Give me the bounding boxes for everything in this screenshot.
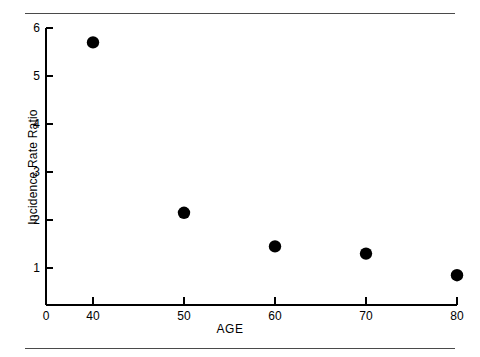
y-tick-label-1: 1 — [18, 262, 40, 274]
data-point — [178, 207, 190, 219]
plot-area: 6 5 4 3 2 1 0 40 50 60 70 80 AGE Inciden… — [0, 0, 480, 357]
data-point — [451, 269, 463, 281]
x-tick-label-80: 80 — [442, 310, 472, 322]
data-point — [87, 36, 99, 48]
x-tick-label-60: 60 — [260, 310, 290, 322]
y-tick-label-6: 6 — [18, 22, 40, 34]
bottom-horizontal-rule — [25, 348, 455, 349]
y-axis-title: Incidence Rate Ratio — [26, 87, 40, 247]
data-point — [269, 240, 281, 252]
x-tick-label-40: 40 — [78, 310, 108, 322]
scatter-plot-svg — [0, 0, 480, 357]
x-tick-label-70: 70 — [351, 310, 381, 322]
data-point — [360, 247, 372, 259]
figure-container: 6 5 4 3 2 1 0 40 50 60 70 80 AGE Inciden… — [0, 0, 480, 357]
x-axis-title: AGE — [195, 322, 265, 336]
x-tick-label-0: 0 — [31, 310, 61, 322]
y-tick-label-5: 5 — [18, 70, 40, 82]
x-tick-label-50: 50 — [169, 310, 199, 322]
